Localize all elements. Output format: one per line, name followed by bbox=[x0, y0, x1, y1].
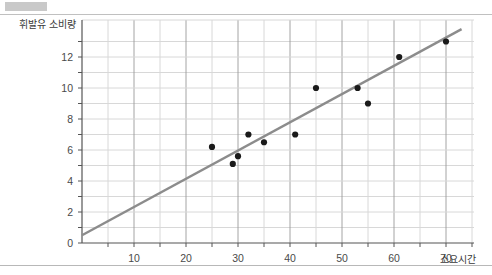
grid-major-horizontal bbox=[82, 20, 474, 212]
x-tick-label: 50 bbox=[336, 252, 348, 264]
data-point bbox=[396, 54, 402, 60]
data-point bbox=[235, 153, 241, 159]
scatter-chart: 024681012 10203040506070 휘발유 소비량 소요시간 bbox=[0, 0, 492, 275]
y-axis-tick-labels: 024681012 bbox=[61, 51, 73, 249]
y-tick-label: 6 bbox=[67, 144, 73, 156]
y-tick-label: 10 bbox=[61, 82, 73, 94]
x-axis-title: 소요시간 bbox=[440, 254, 476, 265]
data-point bbox=[230, 161, 236, 167]
data-point bbox=[443, 38, 449, 44]
x-tick-label: 10 bbox=[128, 252, 140, 264]
x-tick-label: 40 bbox=[284, 252, 296, 264]
chart-svg: 024681012 10203040506070 휘발유 소비량 소요시간 bbox=[0, 0, 492, 275]
x-axis-tick-labels: 10203040506070 bbox=[128, 252, 452, 264]
grid-minor-horizontal bbox=[82, 42, 474, 228]
x-axis-tick-marks bbox=[108, 243, 472, 247]
trend-line bbox=[82, 29, 462, 235]
data-point bbox=[261, 139, 267, 145]
x-tick-label: 60 bbox=[388, 252, 400, 264]
y-tick-label: 0 bbox=[67, 237, 73, 249]
y-tick-label: 12 bbox=[61, 51, 73, 63]
data-point bbox=[245, 131, 251, 137]
data-point bbox=[365, 100, 371, 106]
x-tick-label: 30 bbox=[232, 252, 244, 264]
data-point bbox=[292, 131, 298, 137]
data-point bbox=[313, 85, 319, 91]
data-point bbox=[355, 85, 361, 91]
y-tick-label: 4 bbox=[67, 175, 73, 187]
y-tick-label: 8 bbox=[67, 113, 73, 125]
y-axis-title: 휘발유 소비량 bbox=[19, 19, 76, 30]
x-tick-label: 20 bbox=[180, 252, 192, 264]
y-tick-label: 2 bbox=[67, 206, 73, 218]
data-point bbox=[209, 144, 215, 150]
